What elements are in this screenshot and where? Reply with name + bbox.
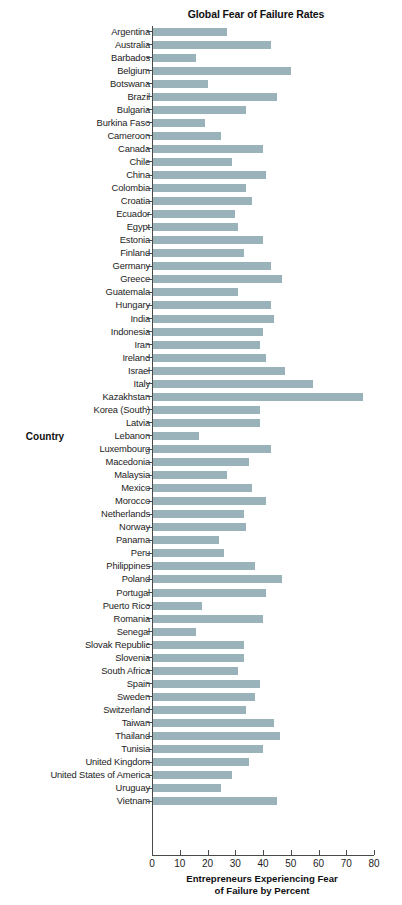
bar [152, 758, 249, 766]
bar-row: Belgium [0, 64, 402, 77]
bar-row: Lebanon [0, 429, 402, 442]
category-label: Panama [2, 533, 150, 546]
bar [152, 54, 196, 62]
category-label: Luxembourg [2, 442, 150, 455]
bar-row: Italy [0, 377, 402, 390]
bar [152, 732, 280, 740]
bar-row: Netherlands [0, 508, 402, 521]
bar-row: Iran [0, 338, 402, 351]
bar-row: Canada [0, 142, 402, 155]
bar [152, 354, 266, 362]
bar-row: Uruguay [0, 782, 402, 795]
bar [152, 249, 244, 257]
category-label: Taiwan [2, 716, 150, 729]
bar [152, 615, 263, 623]
bar-row: Peru [0, 547, 402, 560]
category-label: Kazakhstan [2, 390, 150, 403]
category-label: Slovak Republic [2, 638, 150, 651]
bar [152, 641, 244, 649]
bar-row: Kazakhstan [0, 390, 402, 403]
bar [152, 654, 244, 662]
bar [152, 445, 271, 453]
bar-row: Tunisia [0, 743, 402, 756]
category-label: Thailand [2, 729, 150, 742]
category-label: United States of America [2, 768, 150, 781]
category-label: Chile [2, 155, 150, 168]
bar-row: Puerto Rico [0, 599, 402, 612]
category-label: South Africa [2, 664, 150, 677]
category-label: Slovenia [2, 651, 150, 664]
x-axis-tick-label: 0 [137, 858, 167, 869]
bar [152, 315, 274, 323]
category-label: Mexico [2, 481, 150, 494]
bar [152, 145, 263, 153]
bar [152, 106, 246, 114]
x-axis-tick-label: 30 [220, 858, 250, 869]
bar [152, 158, 232, 166]
x-axis-title-line2: of Failure by Percent [122, 885, 402, 897]
category-label: Hungary [2, 298, 150, 311]
bar [152, 706, 246, 714]
category-label: Malaysia [2, 468, 150, 481]
bar [152, 132, 221, 140]
bar-row: Macedonia [0, 456, 402, 469]
bar [152, 523, 246, 531]
category-label: Ecuador [2, 207, 150, 220]
category-label: Sweden [2, 690, 150, 703]
bar-row: United States of America [0, 769, 402, 782]
bar-row: Barbados [0, 51, 402, 64]
x-axis-tick-label: 60 [304, 858, 334, 869]
x-axis-tick [346, 850, 347, 855]
bar-row: Germany [0, 260, 402, 273]
bar [152, 536, 219, 544]
bar [152, 171, 266, 179]
bar-row: Australia [0, 38, 402, 51]
bar-row: Colombia [0, 182, 402, 195]
bar-row: India [0, 312, 402, 325]
bar-row: Indonesia [0, 325, 402, 338]
bar [152, 589, 266, 597]
category-label: Puerto Rico [2, 599, 150, 612]
category-label: Indonesia [2, 325, 150, 338]
bar-row: Guatemala [0, 286, 402, 299]
bar-row: Panama [0, 534, 402, 547]
x-axis-title: Entrepreneurs Experiencing Fear of Failu… [122, 873, 402, 897]
bar [152, 458, 249, 466]
bar-row: Estonia [0, 234, 402, 247]
category-label: Korea (South) [2, 403, 150, 416]
bar-row: Korea (South) [0, 403, 402, 416]
x-axis-tick [235, 850, 236, 855]
category-label: Morocco [2, 494, 150, 507]
bar [152, 667, 238, 675]
bar [152, 471, 227, 479]
bar [152, 497, 266, 505]
bar-row: Senegal [0, 625, 402, 638]
bar-row: Portugal [0, 586, 402, 599]
category-label: Italy [2, 377, 150, 390]
bar-row: Vietnam [0, 795, 402, 808]
bar [152, 771, 232, 779]
bar-row: United Kingdom [0, 756, 402, 769]
chart-plot-area: Country ArgentinaAustraliaBarbadosBelgiu… [0, 0, 402, 905]
bar-row: Latvia [0, 416, 402, 429]
bar [152, 184, 246, 192]
bar-row: Poland [0, 573, 402, 586]
category-label: Canada [2, 142, 150, 155]
category-label: Bulgaria [2, 103, 150, 116]
category-label: Portugal [2, 586, 150, 599]
category-label: Burkina Faso [2, 116, 150, 129]
bar-row: Luxembourg [0, 443, 402, 456]
bar-row: Burkina Faso [0, 116, 402, 129]
category-label: Israel [2, 364, 150, 377]
bar [152, 341, 260, 349]
bar [152, 484, 252, 492]
bar [152, 41, 271, 49]
bar-row: Sweden [0, 690, 402, 703]
bar [152, 380, 313, 388]
bar-row: Thailand [0, 730, 402, 743]
bar [152, 432, 199, 440]
bar-row: Botswana [0, 77, 402, 90]
bar-row: Ecuador [0, 208, 402, 221]
x-axis-tick-label: 80 [359, 858, 389, 869]
bar-row: Spain [0, 677, 402, 690]
